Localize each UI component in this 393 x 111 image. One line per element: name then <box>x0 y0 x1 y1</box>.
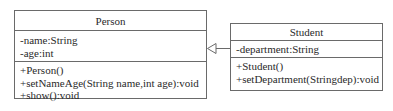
method: +show():void <box>20 89 206 102</box>
hollow-triangle-icon <box>208 44 217 54</box>
method: +Student() <box>236 60 382 73</box>
class-student: Student -department:String +Student() +s… <box>230 23 383 91</box>
class-name: Person <box>15 11 206 31</box>
method: +Person() <box>20 64 206 77</box>
attribute: -department:String <box>236 43 382 56</box>
attribute: -name:String <box>20 34 206 47</box>
method: +setDepartment(Stringdep):void <box>236 73 382 86</box>
attributes-section: -name:String -age:int <box>15 31 206 62</box>
attribute: -age:int <box>20 47 206 60</box>
method: +setNameAge(String name,int age):void <box>20 77 206 90</box>
methods-section: +Person() +setNameAge(String name,int ag… <box>15 62 206 102</box>
attributes-section: -department:String <box>231 41 382 58</box>
class-person: Person -name:String -age:int +Person() +… <box>14 10 207 99</box>
class-name: Student <box>231 24 382 41</box>
methods-section: +Student() +setDepartment(Stringdep):voi… <box>231 58 382 85</box>
